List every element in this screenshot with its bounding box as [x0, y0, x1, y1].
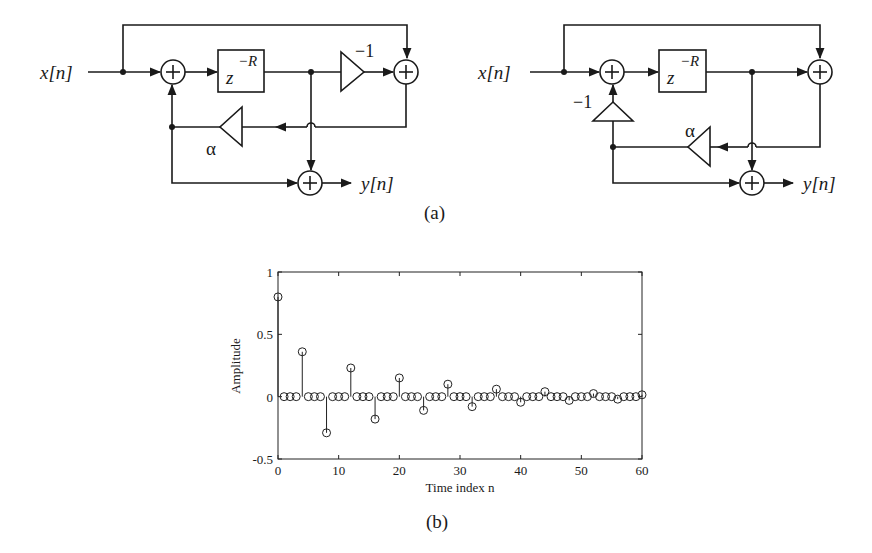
x-tick-label: 0	[275, 463, 282, 478]
x-tick-label: 10	[332, 463, 345, 478]
stem-point	[565, 396, 573, 404]
stem-point	[365, 393, 373, 401]
block-diagram-right: x[n] z −R α −1	[477, 25, 836, 195]
block-diagram-left: x[n] z −R −1 α	[39, 25, 418, 195]
input-label-right: x[n]	[477, 62, 511, 83]
adder-1-left	[161, 60, 185, 84]
stem-point	[583, 393, 591, 401]
stem-point	[395, 374, 403, 397]
stem-point	[371, 397, 379, 423]
adder-1-right	[600, 60, 624, 84]
x-tick-label: 40	[514, 463, 527, 478]
alpha-label: α	[206, 138, 216, 159]
figure-canvas: x[n] z −R −1 α	[0, 0, 872, 553]
stem-point	[438, 393, 446, 401]
alpha-label: α	[685, 120, 695, 141]
stem-point	[414, 393, 422, 401]
adder-2-left	[394, 60, 418, 84]
stem-point	[589, 390, 597, 398]
caption-b: (b)	[426, 511, 448, 533]
svg-text:z: z	[225, 67, 234, 88]
stem-point	[389, 393, 397, 401]
delay-block-left: z −R	[218, 50, 264, 92]
y-tick-label: 1	[267, 265, 274, 280]
gain-label: −1	[573, 92, 592, 112]
delay-block-right: z −R	[659, 50, 706, 92]
axis-ticks: 0102030405060-0.500.51	[252, 265, 648, 478]
stem-point	[323, 397, 331, 437]
x-tick-label: 30	[454, 463, 467, 478]
stem-point	[559, 393, 567, 401]
stem-point	[316, 393, 324, 401]
adder-output-left	[298, 171, 322, 195]
caption-a: (a)	[424, 202, 445, 224]
plot-frame	[278, 272, 642, 459]
gain-triangle-alpha	[220, 107, 242, 146]
stem-plot: 0102030405060-0.500.51 Amplitude Time in…	[228, 265, 649, 495]
stem-point	[298, 348, 306, 397]
gain-label: −1	[355, 41, 374, 61]
adder-output-right	[740, 171, 764, 195]
x-tick-label: 20	[393, 463, 406, 478]
gain-triangle-minus-one	[593, 102, 633, 121]
stem-point	[341, 393, 349, 401]
svg-text:−R: −R	[680, 53, 699, 69]
x-tick-label: 50	[575, 463, 588, 478]
wire-feedback	[315, 84, 406, 127]
x-axis-label: Time index n	[426, 480, 495, 495]
wire-feedback	[756, 84, 820, 147]
output-label-right: y[n]	[801, 173, 836, 194]
stem-point	[462, 393, 470, 401]
stem-point	[347, 364, 355, 397]
svg-text:−R: −R	[238, 53, 257, 69]
svg-text:z: z	[666, 67, 675, 88]
x-tick-label: 60	[636, 463, 649, 478]
stem-point	[486, 393, 494, 401]
input-label-left: x[n]	[39, 62, 73, 83]
stem-point	[274, 293, 282, 397]
y-tick-label: 0	[267, 390, 274, 405]
wire	[172, 127, 297, 183]
y-axis-label: Amplitude	[228, 338, 243, 394]
y-tick-label: 0.5	[257, 327, 273, 342]
output-label-left: y[n]	[359, 173, 394, 194]
wire	[613, 147, 739, 183]
stem-series	[274, 293, 646, 437]
y-tick-label: -0.5	[252, 452, 273, 467]
adder-2-right	[808, 60, 832, 84]
stem-point	[292, 393, 300, 401]
